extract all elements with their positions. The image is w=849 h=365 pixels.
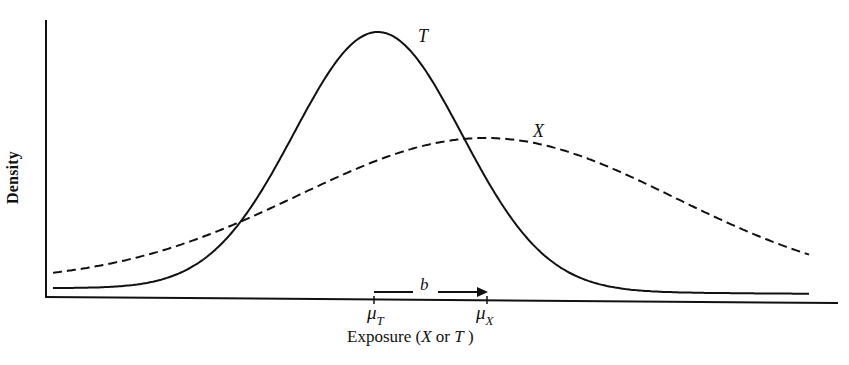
xlabel-var-x: X — [421, 327, 431, 346]
curve-X-dashed — [53, 138, 809, 273]
mu-subscript: X — [486, 313, 494, 328]
xlabel-var-t: T — [454, 327, 463, 346]
mu-subscript: T — [377, 313, 384, 328]
curve-X-label: X — [533, 121, 544, 142]
bias-arrowhead-icon — [477, 287, 488, 297]
xlabel-suffix: ) — [464, 327, 474, 346]
tick-label-mu-X: μX — [476, 302, 494, 328]
xlabel-mid: or — [432, 327, 455, 346]
mu-symbol: μ — [476, 302, 486, 323]
xlabel-prefix: Exposure ( — [347, 327, 421, 346]
x-axis — [45, 297, 838, 303]
curve-T-label: T — [418, 26, 428, 47]
bias-label: b — [420, 275, 429, 295]
density-chart — [0, 0, 849, 365]
curve-T-solid — [53, 32, 809, 294]
mu-symbol: μ — [367, 302, 377, 323]
y-axis-label: Density — [4, 151, 22, 204]
tick-label-mu-T: μT — [367, 302, 384, 328]
x-axis-label: Exposure (X or T ) — [347, 327, 474, 347]
